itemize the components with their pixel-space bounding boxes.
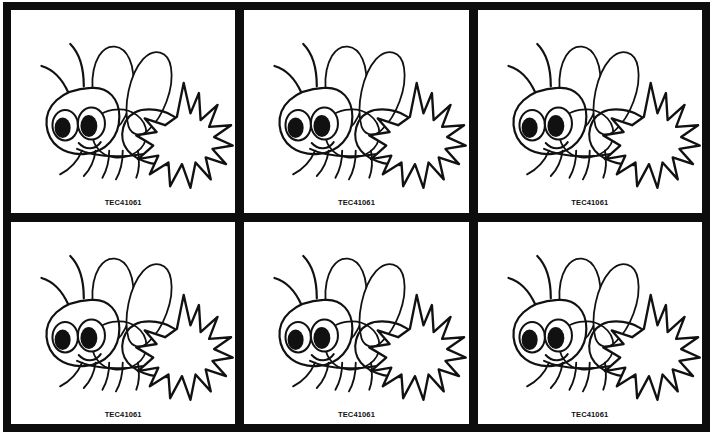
clip-art-panel[interactable]: TEC41061 bbox=[11, 222, 235, 425]
bee-illustration bbox=[478, 10, 702, 213]
bee-illustration bbox=[244, 10, 468, 213]
clip-art-sheet: TEC41061 TEC41061 TEC41061 TEC41061 bbox=[3, 2, 710, 432]
clip-art-panel[interactable]: TEC41061 bbox=[244, 10, 468, 213]
clip-art-panel[interactable]: TEC41061 bbox=[11, 10, 235, 213]
panel-label: TEC41061 bbox=[244, 199, 468, 207]
panel-label: TEC41061 bbox=[478, 199, 702, 207]
clip-art-panel[interactable]: TEC41061 bbox=[244, 222, 468, 425]
clip-art-panel[interactable]: TEC41061 bbox=[478, 222, 702, 425]
clip-art-panel[interactable]: TEC41061 bbox=[478, 10, 702, 213]
panel-label: TEC41061 bbox=[244, 411, 468, 419]
panel-label: TEC41061 bbox=[478, 411, 702, 419]
panel-label: TEC41061 bbox=[11, 199, 235, 207]
bee-illustration bbox=[478, 222, 702, 425]
bee-illustration bbox=[11, 10, 235, 213]
panel-label: TEC41061 bbox=[11, 411, 235, 419]
bee-illustration bbox=[11, 222, 235, 425]
bee-illustration bbox=[244, 222, 468, 425]
